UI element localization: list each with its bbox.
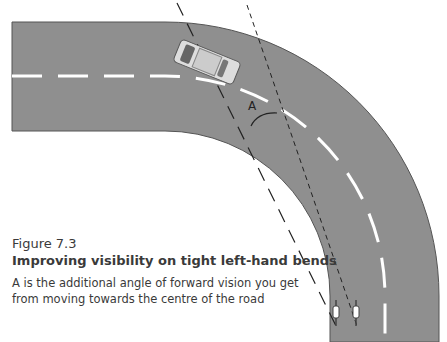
figure-number: Figure 7.3 xyxy=(12,236,77,251)
angle-label: A xyxy=(248,99,257,113)
figure-title: Improving visibility on tight left-hand … xyxy=(12,253,337,268)
figure-description: A is the additional angle of forward vis… xyxy=(12,275,302,307)
